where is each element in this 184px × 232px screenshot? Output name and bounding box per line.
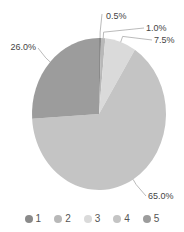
leader-line <box>38 48 50 62</box>
legend-swatch-icon <box>25 215 33 223</box>
legend-swatch-icon <box>113 215 121 223</box>
slice-label: 1.0% <box>146 23 167 33</box>
leader-line <box>121 36 152 42</box>
pie-chart: 0.5%1.0%7.5%65.0%26.0% <box>0 0 184 210</box>
leader-line <box>133 179 146 196</box>
legend-item-1[interactable]: 1 <box>25 213 42 224</box>
legend-item-3[interactable]: 3 <box>84 213 101 224</box>
legend-label: 2 <box>65 213 71 224</box>
slice-label: 7.5% <box>154 35 175 45</box>
legend-item-2[interactable]: 2 <box>54 213 71 224</box>
legend-swatch-icon <box>84 215 92 223</box>
legend-swatch-icon <box>54 215 62 223</box>
slice-label: 0.5% <box>106 11 127 21</box>
slice-label: 26.0% <box>10 42 36 52</box>
legend-label: 1 <box>36 213 42 224</box>
legend-label: 3 <box>95 213 101 224</box>
legend-label: 4 <box>124 213 130 224</box>
pie-slice-5[interactable] <box>32 38 99 119</box>
leader-line <box>100 14 102 38</box>
legend-item-4[interactable]: 4 <box>113 213 130 224</box>
legend-label: 5 <box>154 213 160 224</box>
chart-legend: 1 2 3 4 5 <box>0 213 184 224</box>
legend-item-5[interactable]: 5 <box>143 213 160 224</box>
legend-swatch-icon <box>143 215 151 223</box>
slice-label: 65.0% <box>148 191 174 201</box>
